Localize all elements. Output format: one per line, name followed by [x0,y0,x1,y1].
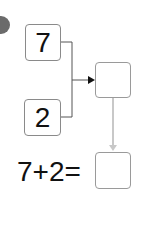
answer-box[interactable] [95,152,131,189]
arrow-right-icon [88,76,95,84]
sum-box[interactable] [95,62,131,98]
equation-text: 7+2= [17,158,81,186]
arrow-down-icon [109,145,117,151]
